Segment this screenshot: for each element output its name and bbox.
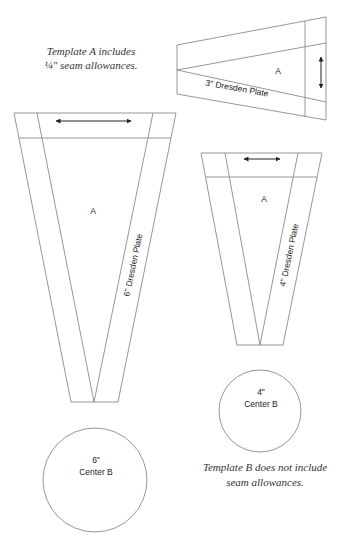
template-3in-piece-label: A bbox=[275, 66, 281, 76]
center-6in-template: 6" Center B bbox=[43, 428, 147, 532]
template-4in-dresden-plate: A 4" Dresden Plate bbox=[201, 153, 322, 345]
template-4in-piece-label: A bbox=[261, 194, 267, 204]
template-b-note: Template B does not include seam allowan… bbox=[203, 461, 327, 488]
template-6in-left-line bbox=[37, 113, 94, 402]
template-3in-upper-line bbox=[177, 43, 326, 70]
template-a-note: Template A includes ¼" seam allowances. bbox=[44, 45, 137, 71]
center-6in-circle bbox=[43, 428, 147, 532]
template-4in-left-line bbox=[225, 153, 260, 345]
template-a-note-line2: ¼" seam allowances. bbox=[44, 59, 137, 71]
template-b-note-line2: seam allowances. bbox=[226, 476, 304, 488]
template-6in-outline bbox=[14, 113, 176, 402]
template-b-note-line1: Template B does not include bbox=[203, 461, 327, 473]
center-6in-size: 6" bbox=[92, 455, 100, 465]
template-4in-outline bbox=[201, 153, 322, 345]
template-3in-dresden-plate: A 3" Dresden Plate bbox=[177, 17, 326, 120]
template-3in-outline bbox=[177, 17, 326, 120]
center-6in-name: Center B bbox=[79, 467, 113, 477]
center-4in-size: 4" bbox=[257, 387, 265, 397]
center-4in-name: Center B bbox=[244, 399, 278, 409]
template-3in-name: 3" Dresden Plate bbox=[205, 78, 270, 99]
template-6in-right-line bbox=[94, 113, 153, 402]
template-6in-piece-label: A bbox=[90, 206, 96, 216]
center-4in-template: 4" Center B bbox=[219, 370, 301, 452]
center-4in-circle bbox=[219, 370, 301, 452]
template-a-note-line1: Template A includes bbox=[47, 45, 135, 57]
template-6in-dresden-plate: A 6" Dresden Plate bbox=[14, 113, 176, 402]
pattern-sheet: Template A includes ¼" seam allowances. … bbox=[0, 0, 345, 536]
